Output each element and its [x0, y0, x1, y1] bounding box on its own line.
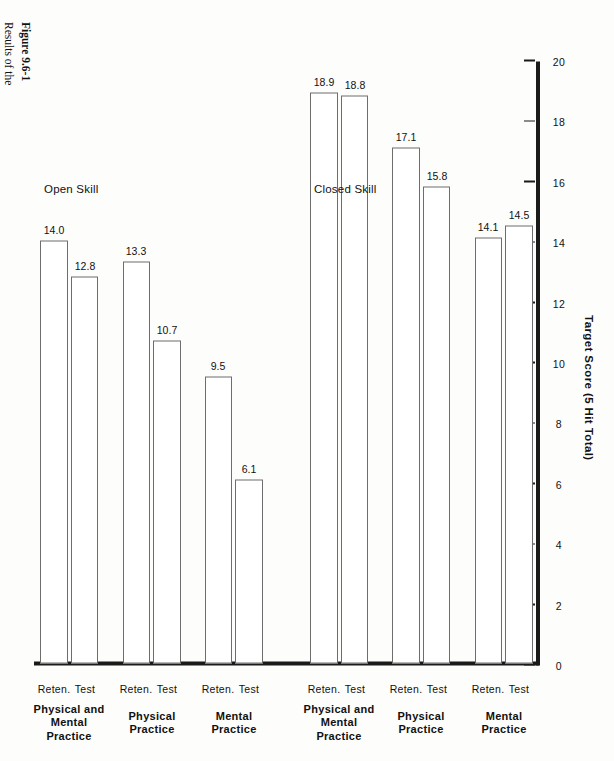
group-label-line: Practice — [304, 730, 375, 743]
figure-caption: Figure 9.6-1 Results of the experiment b… — [0, 22, 34, 282]
value-axis-line — [536, 61, 540, 665]
group-label-line: Physical and — [34, 703, 105, 716]
group-label: Physical andMentalPractice — [304, 703, 375, 743]
value-axis-tick-label: 18 — [553, 115, 566, 127]
group-label-line: Mental — [304, 716, 375, 729]
group-label-line: Mental — [481, 710, 526, 723]
value-axis-tick — [524, 60, 535, 62]
category-tick-label: Reten. — [202, 682, 235, 694]
group-label-line: Practice — [481, 723, 526, 736]
group-label-line: Practice — [211, 723, 256, 736]
figure-number: Figure 9.6-1 — [20, 22, 32, 81]
figure-caption-text: Results of the experiment by McBride and… — [0, 22, 15, 109]
category-tick-label: Test — [74, 682, 94, 694]
group-label: MentalPractice — [481, 710, 526, 737]
category-tick-label: Reten. — [390, 682, 423, 694]
panel-label: Closed Skill — [314, 182, 376, 194]
bar — [341, 95, 368, 663]
value-axis-tick-label: 6 — [556, 478, 562, 490]
group-label-line: Practice — [34, 730, 105, 743]
bar — [475, 237, 502, 663]
bar-value-label: 12.8 — [74, 259, 94, 271]
value-axis-tick — [524, 664, 535, 666]
bar — [392, 147, 419, 663]
bar — [235, 479, 262, 663]
category-tick-label: Test — [157, 682, 177, 694]
bar-value-label: 14.5 — [509, 208, 529, 220]
bar — [123, 261, 150, 663]
bar-chart: 0246810121416182014.0Reten.12.8TestPhysi… — [0, 0, 614, 761]
bar-value-label: 17.1 — [396, 130, 416, 142]
group-label: MentalPractice — [211, 710, 256, 737]
bar-value-label: 18.9 — [314, 75, 334, 87]
bar — [423, 186, 450, 663]
category-tick-label: Reten. — [120, 682, 153, 694]
category-tick-label: Test — [427, 682, 447, 694]
bar-value-label: 13.3 — [126, 244, 146, 256]
group-label-line: Physical and — [304, 703, 375, 716]
value-axis-title: Target Score (5 Hit Total) — [583, 314, 595, 459]
bar — [205, 376, 232, 663]
category-tick-label: Reten. — [38, 682, 71, 694]
value-axis-tick-label: 0 — [556, 659, 562, 671]
group-label-line: Practice — [128, 723, 175, 736]
bar-value-label: 6.1 — [242, 462, 257, 474]
category-tick-label: Test — [344, 682, 364, 694]
value-axis-tick-label: 4 — [556, 538, 562, 550]
category-tick-label: Reten. — [472, 682, 505, 694]
value-axis-tick — [524, 120, 535, 122]
category-axis-line — [34, 661, 539, 665]
plot-area: 0246810121416182014.0Reten.12.8TestPhysi… — [34, 61, 539, 665]
bar-value-label: 14.1 — [478, 220, 498, 232]
value-axis-tick-label: 16 — [553, 176, 566, 188]
bar-value-label: 14.0 — [44, 223, 64, 235]
bar — [153, 340, 180, 663]
bar-value-label: 18.8 — [344, 78, 364, 90]
value-axis-tick-label: 20 — [553, 55, 566, 67]
bar-value-label: 9.5 — [211, 359, 226, 371]
category-tick-label: Test — [509, 682, 529, 694]
value-axis-tick — [524, 180, 535, 182]
value-axis-tick-label: 14 — [553, 236, 566, 248]
figure-page: 0246810121416182014.0Reten.12.8TestPhysi… — [0, 0, 614, 761]
bar — [71, 276, 98, 663]
bar-value-label: 10.7 — [157, 323, 177, 335]
category-tick-label: Test — [239, 682, 259, 694]
group-label: Physical andMentalPractice — [34, 703, 105, 743]
panel-label: Open Skill — [44, 182, 98, 194]
category-tick-label: Reten. — [308, 682, 341, 694]
bar-value-label: 15.8 — [427, 169, 447, 181]
group-label-line: Mental — [211, 710, 256, 723]
value-axis-tick-label: 2 — [556, 599, 562, 611]
value-axis-tick-label: 12 — [553, 297, 566, 309]
bar — [310, 92, 337, 663]
group-label-line: Practice — [398, 723, 445, 736]
group-label-line: Physical — [128, 710, 175, 723]
group-label-line: Mental — [34, 716, 105, 729]
group-label: PhysicalPractice — [128, 710, 175, 737]
value-axis-tick-label: 10 — [553, 357, 566, 369]
group-label-line: Physical — [398, 710, 445, 723]
bar — [505, 225, 532, 663]
value-axis-tick-label: 8 — [556, 417, 562, 429]
group-label: PhysicalPractice — [398, 710, 445, 737]
bar — [40, 240, 67, 663]
